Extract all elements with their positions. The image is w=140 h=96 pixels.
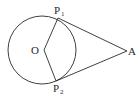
label-p2-subscript: 2: [60, 88, 64, 96]
tangent-p1-a: [58, 18, 127, 51]
tangent-circle-diagram: O P 1 P 2 A: [0, 0, 140, 96]
label-center-o: O: [31, 44, 39, 56]
label-external-a: A: [128, 45, 136, 57]
label-p2: P: [53, 82, 59, 94]
tangent-p2-a: [56, 51, 127, 81]
radius-o-p2: [44, 50, 56, 81]
circle: [8, 16, 76, 84]
label-p1-subscript: 1: [61, 10, 65, 18]
radius-o-p1: [44, 18, 58, 50]
label-p1: P: [54, 4, 60, 16]
